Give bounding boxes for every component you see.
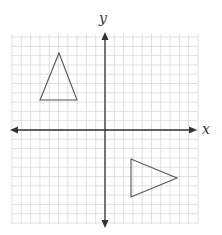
coordinate-grid	[0, 0, 222, 235]
y-axis-up-arrow-icon	[102, 32, 109, 40]
y-axis-down-arrow-icon	[102, 220, 109, 228]
x-axis-label: x	[202, 121, 210, 137]
x-axis-right-arrow-icon	[189, 127, 197, 134]
y-axis-label: y	[99, 10, 107, 26]
coordinate-plane: y x	[0, 0, 222, 235]
x-axis-left-arrow-icon	[10, 127, 18, 134]
